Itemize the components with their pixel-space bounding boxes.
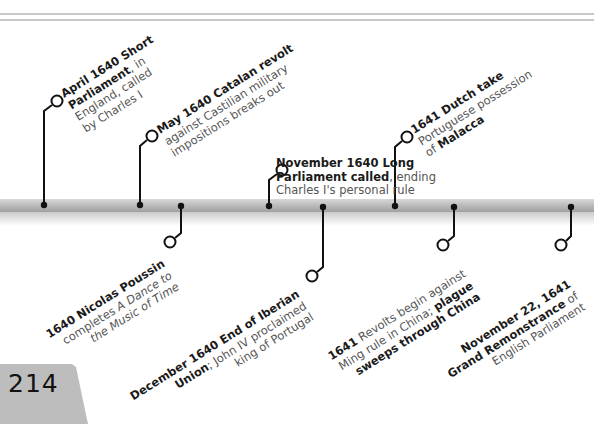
stem-e6 [317,207,323,272]
event-label-line: November 1640 Long [276,157,436,171]
event-marker-e2-icon [147,131,158,142]
event-marker-e1-icon [52,96,63,107]
event-marker-e7-icon [438,240,449,251]
event-marker-e6-icon [307,271,318,282]
bar-dot-e8 [568,204,574,210]
stem-e2 [140,140,147,205]
event-label-e3: November 1640 LongParliament called, end… [276,157,436,198]
page-number: 214 [8,369,59,398]
bar-dot-e5 [178,203,184,209]
bar-dot-e7 [451,204,457,210]
bar-dot-e2 [137,202,143,208]
stem-e8 [566,207,571,241]
bar-dot-e3 [266,203,272,209]
event-marker-e5-icon [165,237,176,248]
stem-e7 [448,207,454,241]
stem-e1 [44,105,52,205]
event-label-line: Charles I's personal rule [276,184,436,198]
bar-dot-e6 [320,204,326,210]
bar-dot-e4 [392,203,398,209]
stem-e5 [175,206,181,238]
event-marker-e4-icon [402,132,413,143]
event-label-line: Parliament called, ending [276,171,436,185]
event-marker-e8-icon [556,240,567,251]
bar-dot-e1 [41,202,47,208]
